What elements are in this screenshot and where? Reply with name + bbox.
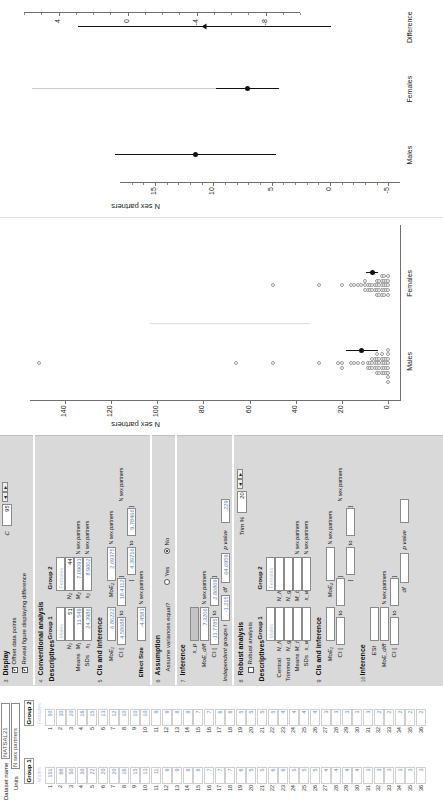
assume-variances-yes-radio[interactable] [164, 579, 170, 585]
trim-stepper-up[interactable]: ► [237, 469, 243, 479]
plotA-tick-label: 60 [245, 405, 252, 431]
reveal-difference-checkbox[interactable] [22, 667, 28, 673]
confidence-level-stepper-down[interactable]: ◄ [2, 492, 8, 502]
confidence-level-stepper-up[interactable]: ► [2, 482, 8, 492]
plotB-diff-minor-tick [283, 13, 284, 15]
plotA-tick-label: 80 [198, 405, 205, 431]
sheet-row-number: 16 [206, 727, 213, 736]
s1-value: 24.3986 [84, 607, 92, 641]
sheet-row-number: 6 [100, 727, 107, 736]
sheet-cell-value: 20 [98, 767, 108, 784]
robust-title: Robust analysis [237, 622, 244, 676]
plotA-data-point [352, 361, 356, 365]
plotA-x-axis [400, 225, 401, 401]
sheet-row-number: 16 [206, 785, 213, 794]
plotA-data-point [386, 352, 390, 356]
assume-variances-no-radio[interactable] [164, 548, 170, 554]
dataset-name-label: Dataset name [3, 763, 9, 800]
plotA-y-axis [30, 400, 400, 401]
plotA-category-label: Males [406, 341, 413, 381]
plotA-data-point [37, 361, 41, 365]
cis-section-number: 5 [97, 679, 103, 682]
units-label: Units [13, 776, 19, 790]
plotA-data-point [352, 283, 356, 287]
plotA-tick [296, 401, 297, 404]
sheet-cell-value: 9 [151, 709, 161, 726]
cis-units-1: N sex partners [108, 511, 114, 545]
plotB-tick-label: 0 [325, 187, 332, 213]
robust-inference-units: N sex partners [381, 571, 387, 605]
plotA-data-point [386, 371, 390, 375]
ci1-to: to [118, 610, 124, 615]
sheet-row-number: 26 [312, 785, 319, 794]
robust-group1-name: Males [267, 624, 275, 640]
trim-percent-value[interactable]: 20 [238, 491, 246, 513]
robust-moe-diff-symbol: MoE_diff [381, 644, 387, 668]
robust-df-label: df [401, 587, 407, 592]
sheet-row-number: 20 [248, 785, 255, 794]
sheet-row-number: 29 [343, 727, 350, 736]
dataset-name-value[interactable]: NATSAL21 [2, 727, 8, 757]
sheet-cell-value: 5 [268, 709, 278, 726]
plotA-tick [111, 401, 112, 404]
ci1-label: CI [ [118, 648, 124, 657]
plotB-diff-minor-tick [110, 13, 111, 15]
sheet-row-number: 34 [396, 727, 403, 736]
plotA-data-point [336, 361, 340, 365]
trim-stepper-down[interactable]: ◄ [237, 479, 243, 489]
plotB-diff-minor-tick [24, 13, 25, 15]
sheet-cell-value: 5 [289, 767, 299, 784]
plotB-tick [155, 183, 156, 186]
display-section-number: 3 [3, 679, 9, 682]
sheet-cell-value: 4 [310, 709, 320, 726]
sheet-cell-value: 3 [363, 709, 373, 726]
diff-ci-low: -11.7785 [211, 617, 219, 645]
plotA-data-point [271, 283, 275, 287]
plotB-minor-tick [178, 183, 179, 185]
robust-diff-ci-label: CI [ [391, 648, 397, 657]
sheet-row-number: 12 [163, 727, 170, 736]
sheet-row-number: 12 [163, 785, 170, 794]
plotB-tick [213, 183, 214, 186]
plotB-minor-tick [377, 183, 378, 185]
sheet-row-number: 29 [343, 785, 350, 794]
sheet-cell-value: 4 [299, 709, 309, 726]
robust-analysis-checkbox[interactable] [248, 667, 254, 673]
plotA-data-point [386, 279, 390, 283]
sheet-cell-value: 16 [77, 709, 87, 726]
ci1-high: 18.4112 [118, 578, 126, 606]
sheet-cell-value: 9 [162, 709, 172, 726]
confidence-level-value[interactable]: 95 [3, 504, 11, 526]
plotA-data-point [386, 375, 390, 379]
sheet-row-number: 21 [259, 727, 266, 736]
sheet-row-number: 14 [184, 727, 191, 736]
plotA-data-point [386, 357, 390, 361]
cis-title: CIs and inference [96, 617, 103, 675]
conv-units-1: N sex partners [75, 521, 81, 555]
sheet-cell-value: 7 [204, 709, 214, 726]
offset-data-points-checkbox[interactable] [12, 667, 18, 673]
robust-inference-section-number: 10 [360, 676, 366, 682]
sheet-group1-header: Group 1 [24, 758, 34, 784]
sheet-row-number: 8 [121, 727, 128, 736]
sheet-row-number: 20 [248, 727, 255, 736]
plotB-minor-tick [260, 183, 261, 185]
sheet-row-number: 30 [354, 727, 361, 736]
sheet-row-number: 22 [269, 727, 276, 736]
s1-symbol: s₁ [84, 644, 90, 649]
df-label: df [222, 587, 228, 592]
robust-means-label: Means [294, 653, 300, 671]
units-value[interactable]: N sex partners [12, 728, 18, 767]
n2-value[interactable]: 44 [66, 557, 74, 591]
plotB-diff-tick-label: -4 [192, 19, 199, 45]
robust-cis-units-2: N sex partners [337, 468, 343, 502]
trimmed-label: Trimmed [285, 658, 291, 681]
plotA-data-point [386, 348, 390, 352]
sheet-cell-value: 5 [246, 767, 256, 784]
sheet-cell-value: 2 [384, 709, 394, 726]
sheet-row-number: 36 [418, 785, 425, 794]
n1-value[interactable]: 51 [66, 607, 74, 641]
sheet-row-number: 31 [365, 785, 372, 794]
descriptives-label: Descriptives [48, 640, 55, 682]
plotB-diff-tick-label: 4 [54, 19, 61, 45]
